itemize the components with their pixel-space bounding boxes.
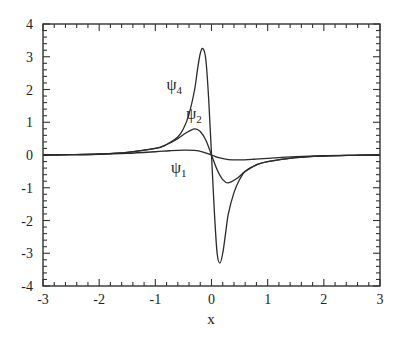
annotation-subscript: 1 — [181, 167, 187, 179]
y-tick-label: 0 — [26, 148, 33, 163]
y-tick-label: -1 — [21, 181, 33, 196]
series-annotation: ψ1 — [171, 159, 187, 179]
series-annotation: ψ2 — [186, 105, 202, 125]
y-tick-label: 4 — [26, 17, 33, 32]
x-tick-label: -2 — [93, 292, 105, 307]
x-axis-label: x — [207, 311, 215, 327]
x-tick-label: -1 — [149, 292, 161, 307]
annotation-subscript: 2 — [196, 113, 202, 125]
chart: -3-2-10123-4-3-2-101234 x ψ4ψ2ψ1 — [0, 0, 402, 341]
y-tick-label: -2 — [21, 214, 33, 229]
x-tick-label: -3 — [37, 292, 49, 307]
series-line-ψ4 — [43, 48, 380, 263]
y-tick-label: -3 — [21, 246, 33, 261]
x-tick-label: 0 — [208, 292, 215, 307]
x-tick-label: 3 — [377, 292, 384, 307]
annotation-subscript: 4 — [177, 84, 183, 96]
tick-labels-layer: -3-2-10123-4-3-2-101234 — [21, 17, 383, 307]
y-tick-label: 2 — [26, 83, 33, 98]
series-annotation: ψ4 — [167, 76, 183, 96]
y-tick-label: -4 — [21, 279, 33, 294]
x-tick-label: 2 — [320, 292, 327, 307]
curves-layer — [43, 48, 380, 263]
x-tick-label: 1 — [264, 292, 271, 307]
y-tick-label: 3 — [26, 50, 33, 65]
annotation-symbol: ψ — [171, 159, 181, 177]
annotation-symbol: ψ — [167, 76, 177, 94]
y-tick-label: 1 — [26, 115, 33, 130]
annotation-symbol: ψ — [186, 105, 196, 123]
